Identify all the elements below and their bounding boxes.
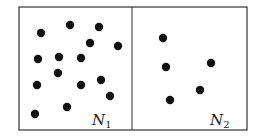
- particle-dot: [95, 23, 103, 31]
- particle-dot: [77, 81, 85, 89]
- right-chamber-particles: [159, 34, 215, 104]
- particle-dot: [162, 63, 170, 71]
- particle-dot: [114, 42, 122, 50]
- particle-dot: [159, 34, 167, 42]
- particle-dot: [106, 92, 114, 100]
- particle-dot: [86, 39, 94, 47]
- particle-dot: [63, 103, 71, 111]
- right-chamber-label: N2: [209, 111, 230, 130]
- particle-dot: [207, 59, 215, 67]
- left-chamber-label: N1: [91, 111, 112, 130]
- particle-dot: [166, 96, 174, 104]
- particle-dot: [34, 55, 42, 63]
- particle-dot: [37, 29, 45, 37]
- two-chamber-diagram: N1 N2: [0, 0, 265, 140]
- particle-dot: [77, 54, 85, 62]
- particle-dot: [31, 110, 39, 118]
- particle-dot: [55, 53, 63, 61]
- particle-dot: [66, 21, 74, 29]
- particle-dot: [196, 86, 204, 94]
- particle-dot: [33, 81, 41, 89]
- left-chamber-particles: [31, 21, 122, 118]
- particle-dot: [97, 76, 105, 84]
- particle-dot: [54, 69, 62, 77]
